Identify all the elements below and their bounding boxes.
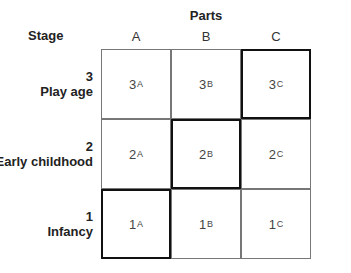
row-name: Early childhood bbox=[0, 154, 93, 169]
column-header-b: B bbox=[171, 29, 241, 44]
column-header-a: A bbox=[101, 29, 171, 44]
column-header-c: C bbox=[241, 29, 311, 44]
row-name: Infancy bbox=[0, 224, 93, 239]
row-number: 1 bbox=[0, 209, 93, 224]
cell-1c: 1C bbox=[241, 189, 311, 259]
cell-1b: 1B bbox=[171, 189, 241, 259]
cell-2a: 2A bbox=[101, 119, 171, 189]
row-number: 3 bbox=[0, 69, 93, 84]
cell-3c: 3C bbox=[241, 49, 311, 119]
row-label-2: 2 Early childhood bbox=[0, 139, 93, 169]
row-label-1: 1 Infancy bbox=[0, 209, 93, 239]
parts-title: Parts bbox=[171, 8, 241, 23]
stage-parts-grid: 3A 3B 3C 2A 2B 2C 1A 1B 1C bbox=[101, 49, 311, 259]
cell-3b: 3B bbox=[171, 49, 241, 119]
row-label-3: 3 Play age bbox=[0, 69, 93, 99]
cell-3a: 3A bbox=[101, 49, 171, 119]
row-number: 2 bbox=[0, 139, 93, 154]
cell-2c: 2C bbox=[241, 119, 311, 189]
stage-title: Stage bbox=[28, 28, 63, 43]
cell-2b: 2B bbox=[171, 119, 241, 189]
cell-1a: 1A bbox=[101, 189, 171, 259]
row-name: Play age bbox=[0, 84, 93, 99]
